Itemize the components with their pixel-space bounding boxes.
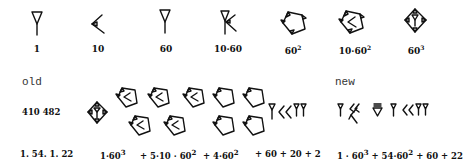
term-3: + 4·602	[203, 148, 239, 161]
sar-216000-icon	[85, 100, 109, 130]
term-1: 1·603	[100, 148, 126, 161]
sar-3600-icon	[242, 85, 266, 113]
sar-36000-icon	[163, 113, 187, 141]
label-3600: 602	[278, 44, 308, 56]
label-216000: 603	[403, 44, 429, 56]
new-heading: new	[335, 76, 355, 88]
decimal-number: 410 482	[22, 107, 60, 117]
new-expression: 1 · 603 + 54·602 + 60 + 22	[337, 148, 463, 161]
new-notation-icon	[337, 103, 437, 131]
old-heading: old	[22, 76, 42, 88]
sar-3600-icon	[242, 113, 266, 141]
sexagesimal-notation: 1. 54. 1. 22	[20, 149, 73, 159]
label-10: 10	[88, 44, 108, 54]
wedge-1-icon	[30, 10, 44, 40]
wedge-10-icon	[90, 13, 106, 39]
label-1: 1	[28, 44, 46, 54]
wedge-600-icon	[219, 9, 239, 39]
term-2: + 5·10 · 602	[140, 148, 196, 161]
sar-3600-icon	[212, 85, 236, 113]
units-82-icon	[268, 103, 310, 125]
wedge-60-icon	[158, 8, 172, 38]
sar-36000-icon	[338, 8, 366, 40]
sar-36000-icon	[115, 85, 139, 113]
label-60: 60	[155, 44, 177, 54]
sar-216000-icon	[402, 7, 428, 39]
label-36000: 10·602	[334, 44, 376, 56]
sar-3600-icon	[280, 9, 308, 41]
sar-36000-icon	[147, 85, 171, 113]
term-4: + 60 + 20 + 2	[255, 149, 321, 159]
label-600: 10·60	[210, 44, 246, 54]
sar-36000-icon	[182, 85, 206, 113]
sar-3600-icon	[212, 113, 236, 141]
sar-36000-icon	[128, 113, 152, 141]
